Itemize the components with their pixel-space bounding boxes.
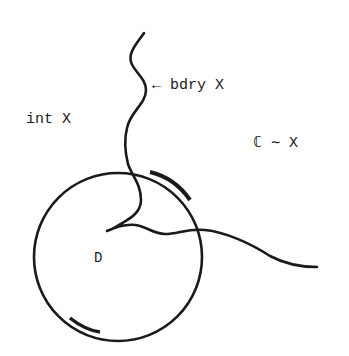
disk-label: D [94,251,102,265]
disk-circle-ink-top [150,172,190,200]
disk-circle [34,173,202,341]
complement-label: ℂ ∼ X [253,136,298,151]
diagram-canvas [0,0,349,356]
interior-label: int X [26,112,71,127]
boundary-label: ← bdry X [152,78,224,93]
